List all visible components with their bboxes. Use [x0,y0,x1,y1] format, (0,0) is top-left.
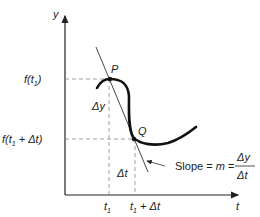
tangent-slope-diagram: y t P Q f(t1) f(t1 + Δt) t1 t1 + Δt Δy Δ… [0,0,260,217]
y-axis-label: y [52,8,60,20]
y-tick-f-t1: f(t1) [24,73,42,87]
point-q-label: Q [138,125,147,137]
point-p [108,77,112,81]
slope-numerator: Δy [236,151,251,163]
point-p-label: P [111,63,119,75]
diagram-canvas: y t P Q f(t1) f(t1 + Δt) t1 t1 + Δt Δy Δ… [0,0,260,217]
x-tick-t1: t1 [104,200,111,214]
x-tick-t1-dt: t1 + Δt [130,200,161,214]
x-axis-label: t [236,200,240,212]
slope-label: Slope = m = [175,160,234,172]
delta-t-label: Δt [116,167,128,179]
slope-pointer [147,161,165,166]
slope-denominator: Δt [236,169,248,181]
delta-y-label: Δy [91,100,106,112]
point-q [132,137,136,141]
y-tick-f-t1-dt: f(t1 + Δt) [2,133,43,147]
